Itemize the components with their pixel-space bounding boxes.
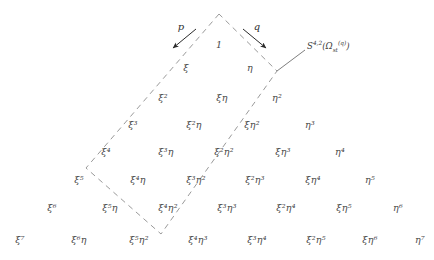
arrow-label-p: p: [178, 21, 184, 32]
monomial-cell: ξ³η⁴: [247, 235, 266, 245]
monomial-cell: ξη⁶: [362, 235, 377, 245]
monomial-cell: ξ⁴η²: [158, 203, 177, 213]
monomial-cell: ξ⁴: [101, 147, 110, 157]
monomial-cell: 1: [216, 40, 222, 50]
monomial-cell: η⁴: [335, 147, 345, 157]
figure-canvas: p q S4,2(Ωst(q)) 1ξηξ²ξηη²ξ³ξ²ηξη²η³ξ⁴ξ³…: [0, 0, 434, 260]
monomial-cell: ξ²η: [186, 120, 201, 130]
monomial-cell: ξ²η³: [245, 175, 264, 185]
monomial-cell: ξ⁷: [15, 235, 24, 245]
monomial-cell: ξ³η: [158, 147, 173, 157]
arrow-p: [173, 29, 196, 48]
monomial-cell: ξ⁵η: [102, 203, 117, 213]
monomial-cell: ξ⁶: [47, 203, 56, 213]
monomial-cell: ξ⁴η³: [188, 235, 207, 245]
annotation-close-paren: ): [346, 41, 349, 51]
monomial-cell: ξη²: [244, 120, 259, 130]
monomial-cell: η⁶: [393, 203, 403, 213]
arrow-label-q: q: [254, 21, 260, 32]
monomial-cell: ξ²: [158, 93, 167, 103]
annotation-pointer-line: [277, 50, 305, 71]
monomial-cell: ξ⁵η²: [129, 235, 148, 245]
annotation-omega: Ω: [325, 41, 332, 51]
monomial-cell: η⁵: [365, 175, 375, 185]
monomial-cell: ξη: [216, 93, 227, 103]
annotation-omega-superscript: (q): [338, 40, 346, 46]
monomial-cell: ξ²η²: [214, 147, 233, 157]
monomial-cell: ξ³η³: [217, 203, 236, 213]
monomial-cell: ξ⁴η: [130, 175, 145, 185]
monomial-cell: ξ⁶η: [71, 235, 86, 245]
monomial-cell: ξ³: [128, 120, 137, 130]
monomial-cell: η⁷: [415, 235, 425, 245]
annotation-omega-subscript: st: [333, 47, 338, 53]
monomial-cell: ξη⁴: [305, 175, 320, 185]
monomial-cell: ξ³η²: [186, 175, 205, 185]
monomial-cell: η: [247, 63, 253, 73]
arrow-q: [243, 29, 266, 48]
monomial-cell: η²: [272, 93, 282, 103]
region-annotation: S4,2(Ωst(q)): [307, 41, 350, 51]
monomial-cell: η³: [305, 120, 315, 130]
monomial-cell: ξ²η⁴: [276, 203, 295, 213]
monomial-cell: ξη³: [275, 147, 290, 157]
monomial-cell: ξη⁵: [336, 203, 351, 213]
monomial-cell: ξ⁵: [74, 175, 83, 185]
annotation-superscript: 4,2: [313, 40, 322, 46]
monomial-cell: ξ²η⁵: [306, 235, 325, 245]
monomial-cell: ξ: [183, 63, 188, 73]
